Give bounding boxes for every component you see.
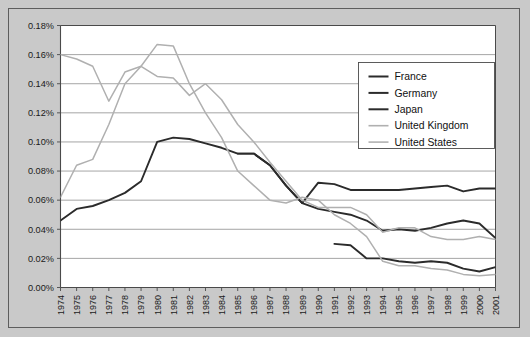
x-axis-tick-label: 1989 xyxy=(298,295,308,315)
x-axis-tick-label: 1981 xyxy=(169,295,179,315)
x-axis-tick-label: 1992 xyxy=(346,295,356,315)
x-axis-tick-label: 1988 xyxy=(281,295,291,315)
x-axis-tick-label: 1980 xyxy=(153,295,163,315)
legend-label-france: France xyxy=(395,71,428,82)
y-axis-tick-label: 0.06% xyxy=(28,195,54,205)
y-axis-tick-label: 0.12% xyxy=(28,108,54,118)
x-axis-tick-label: 1977 xyxy=(104,295,114,315)
x-axis-tick-label: 1979 xyxy=(136,295,146,315)
y-axis-tick-label: 0.02% xyxy=(28,254,54,264)
x-axis-tick-label: 1982 xyxy=(185,295,195,315)
x-axis-tick-label: 1996 xyxy=(410,295,420,315)
x-axis-tick-label: 1994 xyxy=(378,295,388,315)
y-axis-tick-label: 0.04% xyxy=(28,225,54,235)
x-axis-tick-label: 1978 xyxy=(120,295,130,315)
legend-label-japan: Japan xyxy=(395,104,424,115)
y-axis-tick-label: 0.08% xyxy=(28,166,54,176)
x-axis-tick-label: 1983 xyxy=(201,295,211,315)
y-axis-tick-labels: 0.00%0.02%0.04%0.06%0.08%0.10%0.12%0.14%… xyxy=(28,21,54,293)
y-axis-tick-label: 0.18% xyxy=(28,21,54,31)
x-axis-tick-label: 1986 xyxy=(249,295,259,315)
legend-label-united-states: United States xyxy=(395,137,457,148)
x-axis-tick-label: 1985 xyxy=(233,295,243,315)
x-axis-tick-label: 1993 xyxy=(362,295,372,315)
x-axis-tick-label: 1991 xyxy=(330,295,340,315)
x-axis-tick-label: 1998 xyxy=(443,295,453,315)
y-axis-tick-label: 0.16% xyxy=(28,50,54,60)
x-axis-tick-label: 2001 xyxy=(491,295,501,315)
x-axis-tick-label: 1990 xyxy=(314,295,324,315)
x-axis-tick-label: 1976 xyxy=(88,295,98,315)
figure-background: 0.00%0.02%0.04%0.06%0.08%0.10%0.12%0.14%… xyxy=(0,0,530,337)
y-axis-tick-label: 0.14% xyxy=(28,79,54,89)
x-axis-tick-label: 1999 xyxy=(459,295,469,315)
x-axis-tick-label: 1975 xyxy=(72,295,82,315)
x-axis-tick-label: 1984 xyxy=(217,295,227,315)
legend: FranceGermanyJapanUnited KingdomUnited S… xyxy=(359,63,495,149)
x-axis-tick-label: 1995 xyxy=(394,295,404,315)
x-axis-tick-label: 2000 xyxy=(475,295,485,315)
x-axis-tick-labels: 1974197519761977197819791980198119821983… xyxy=(56,288,501,316)
y-axis-tick-label: 0.00% xyxy=(28,283,54,293)
line-chart: 0.00%0.02%0.04%0.06%0.08%0.10%0.12%0.14%… xyxy=(0,0,530,337)
legend-label-united-kingdom: United Kingdom xyxy=(395,120,469,131)
y-axis-tick-label: 0.10% xyxy=(28,137,54,147)
x-axis-tick-label: 1987 xyxy=(265,295,275,315)
legend-label-germany: Germany xyxy=(395,88,439,99)
x-axis-tick-label: 1974 xyxy=(56,295,66,315)
x-axis-tick-label: 1997 xyxy=(426,295,436,315)
